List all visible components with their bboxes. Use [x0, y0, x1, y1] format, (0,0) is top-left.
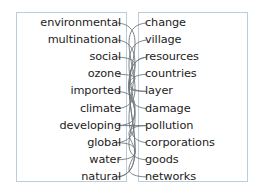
right-word-countries[interactable]: countries [145, 68, 197, 80]
left-word-ozone[interactable]: ozone [88, 68, 121, 80]
right-word-change[interactable]: change [145, 17, 186, 29]
left-word-list: environmentalmultinationalsocialozoneimp… [16, 12, 127, 182]
left-word-social[interactable]: social [89, 51, 121, 63]
right-word-resources[interactable]: resources [145, 51, 199, 63]
left-word-developing[interactable]: developing [60, 120, 121, 132]
left-word-imported[interactable]: imported [70, 85, 121, 97]
left-word-water[interactable]: water [89, 154, 121, 166]
right-word-corporations[interactable]: corporations [145, 137, 215, 149]
left-word-multinational[interactable]: multinational [48, 34, 121, 46]
right-word-list: changevillageresourcescountrieslayerdama… [138, 12, 248, 182]
left-word-climate[interactable]: climate [80, 103, 121, 115]
right-word-networks[interactable]: networks [145, 171, 196, 183]
figure-canvas: environmentalmultinationalsocialozoneimp… [0, 0, 258, 193]
right-word-damage[interactable]: damage [145, 103, 191, 115]
left-word-global[interactable]: global [87, 137, 121, 149]
right-word-layer[interactable]: layer [145, 85, 173, 97]
right-word-village[interactable]: village [145, 34, 181, 46]
left-word-natural[interactable]: natural [81, 171, 121, 183]
left-word-environmental[interactable]: environmental [40, 17, 121, 29]
right-word-pollution[interactable]: pollution [145, 120, 193, 132]
right-word-goods[interactable]: goods [145, 154, 179, 166]
